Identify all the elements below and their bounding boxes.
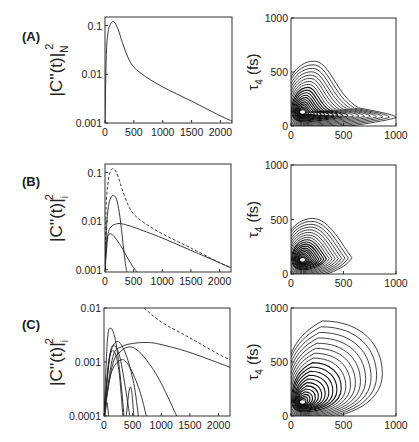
x-tick-label: 2000 — [209, 126, 233, 138]
x-tick-label: 500 — [335, 419, 353, 431]
x-tick-label: 0 — [288, 419, 294, 431]
x-tick-label: 2000 — [208, 275, 232, 287]
y-tick-label: 500 — [270, 356, 288, 368]
contour-lines — [283, 218, 352, 278]
y-tick-label: 1000 — [265, 159, 289, 171]
x-tick-label: 500 — [124, 419, 142, 431]
y-tick-label: 1000 — [265, 302, 289, 314]
series-i-2 — [105, 223, 231, 269]
x-tick-label: 1000 — [384, 129, 408, 141]
y-axis-label: |C''(t)|i2 — [43, 338, 70, 386]
y-tick-label: 0.1 — [87, 167, 102, 179]
y-axis-label-tau4: τ4(fs) — [244, 343, 265, 380]
x-tick-label: 1000 — [151, 126, 175, 138]
series-mode-b — [104, 347, 177, 416]
y-axis-label-tau4: τ4(fs) — [244, 53, 265, 90]
series-mode-h — [126, 387, 134, 416]
y-axis-label: |C''(t)|i2 — [43, 194, 70, 242]
y-tick-label: 500 — [270, 214, 288, 226]
x-tick-label: 2000 — [207, 419, 231, 431]
chart-a-right: τ4(fs) — [244, 18, 396, 130]
chart-a-left: |C''(t)|N2 — [43, 17, 232, 123]
chart-c-left: |C''(t)|i2 — [43, 308, 230, 416]
x-tick-label: 500 — [335, 277, 353, 289]
x-tick-label: 1000 — [150, 419, 174, 431]
axes-frame — [105, 164, 231, 272]
y-tick-label: 0.001 — [76, 264, 102, 276]
chart-b-left: |C''(t)|i2 — [43, 164, 231, 272]
x-tick-label: 0 — [288, 277, 294, 289]
y-tick-label: 0 — [282, 120, 288, 132]
contour-peak — [300, 258, 305, 262]
x-tick-label: 1500 — [179, 275, 203, 287]
chart-c-right: τ4(fs) — [244, 308, 396, 420]
panel-label-c: (C) — [22, 317, 40, 332]
x-tick-label: 500 — [125, 275, 143, 287]
x-tick-label: 1000 — [384, 419, 408, 431]
y-tick-label: 0.01 — [81, 302, 102, 314]
x-tick-label: 1000 — [384, 277, 408, 289]
y-tick-label: 0.001 — [76, 117, 102, 129]
contour-peak — [300, 110, 305, 114]
figure: |C''(t)|N205001000150020000.0010.010.1τ4… — [0, 0, 419, 442]
y-tick-label: 0.001 — [75, 356, 101, 368]
contour-lines — [283, 61, 396, 130]
contour-lines — [283, 321, 382, 420]
panel-label-b: (B) — [22, 174, 40, 189]
x-tick-label: 1500 — [180, 126, 204, 138]
y-tick-label: 0 — [282, 410, 288, 422]
panel-label-a: (A) — [22, 29, 40, 44]
chart-b-right: τ4(fs) — [244, 165, 396, 278]
x-tick-label: 0 — [102, 275, 108, 287]
x-tick-label: 0 — [101, 419, 107, 431]
y-tick-label: 500 — [270, 66, 288, 78]
y-tick-label: 1000 — [265, 12, 289, 24]
figure-canvas: |C''(t)|N205001000150020000.0010.010.1τ4… — [0, 0, 419, 442]
x-tick-label: 1000 — [151, 275, 175, 287]
y-axis-label: |C''(t)|N2 — [43, 43, 70, 96]
series-total — [105, 22, 232, 123]
x-tick-label: 500 — [125, 126, 143, 138]
y-tick-label: 0.01 — [82, 68, 103, 80]
series-i-3 — [105, 234, 137, 272]
x-tick-label: 0 — [288, 129, 294, 141]
y-tick-label: 0.0001 — [69, 410, 101, 422]
x-tick-label: 1500 — [178, 419, 202, 431]
y-tick-label: 0.1 — [87, 20, 102, 32]
x-tick-label: 0 — [102, 126, 108, 138]
y-axis-label-tau4: τ4(fs) — [244, 201, 265, 238]
contour-peak — [300, 400, 305, 404]
y-tick-label: 0.01 — [82, 215, 103, 227]
axes-frame — [105, 17, 232, 123]
x-tick-label: 500 — [335, 129, 353, 141]
y-tick-label: 0 — [282, 268, 288, 280]
